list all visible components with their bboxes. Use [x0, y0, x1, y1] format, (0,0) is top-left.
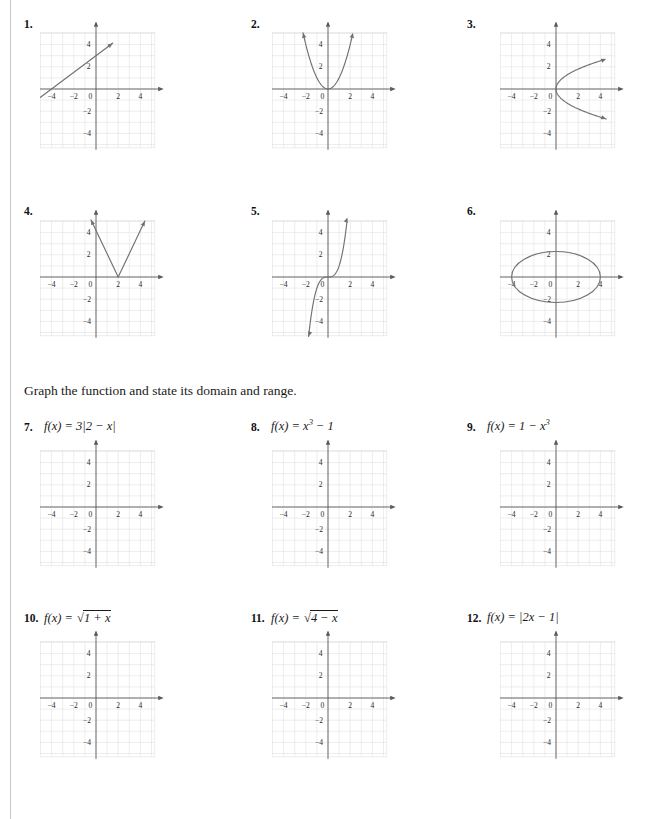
svg-text:−4: −4 [48, 510, 56, 519]
svg-text:2: 2 [348, 92, 352, 101]
svg-text:0: 0 [89, 701, 93, 710]
svg-text:4: 4 [139, 510, 143, 519]
svg-text:−2: −2 [83, 525, 91, 534]
svg-text:2: 2 [547, 671, 551, 680]
problem-number-5: 5. [251, 205, 260, 217]
svg-text:−2: −2 [83, 295, 91, 304]
svg-text:2: 2 [319, 250, 323, 259]
svg-text:−4: −4 [543, 317, 551, 326]
svg-text:4: 4 [547, 228, 551, 237]
svg-text:−4: −4 [83, 317, 91, 326]
svg-text:−4: −4 [83, 547, 91, 556]
svg-text:−4: −4 [280, 510, 288, 519]
svg-text:4: 4 [139, 701, 143, 710]
problem-formula-7: f(x) = 3|2 − x| [44, 419, 116, 434]
svg-text:4: 4 [319, 458, 323, 467]
svg-text:2: 2 [87, 480, 91, 489]
svg-text:4: 4 [599, 701, 603, 710]
coordinate-graph-2: −4−224042−2−4xy [272, 22, 398, 156]
problem-number-2: 2. [251, 18, 260, 30]
problem-number-10: 10. [24, 612, 38, 624]
svg-text:2: 2 [87, 250, 91, 259]
svg-text:4: 4 [371, 701, 375, 710]
svg-text:−2: −2 [83, 107, 91, 116]
svg-text:−4: −4 [315, 317, 323, 326]
svg-text:2: 2 [116, 280, 120, 289]
svg-text:4: 4 [319, 40, 323, 49]
svg-text:−4: −4 [508, 701, 516, 710]
svg-text:4: 4 [87, 458, 91, 467]
svg-text:−4: −4 [315, 547, 323, 556]
svg-text:2: 2 [116, 510, 120, 519]
svg-text:4: 4 [371, 280, 375, 289]
problem-number-7: 7. [24, 421, 33, 433]
svg-text:0: 0 [549, 280, 553, 289]
svg-text:4: 4 [547, 649, 551, 658]
svg-text:4: 4 [319, 228, 323, 237]
svg-text:4: 4 [371, 92, 375, 101]
svg-text:0: 0 [321, 92, 325, 101]
svg-text:4: 4 [599, 510, 603, 519]
svg-text:0: 0 [321, 701, 325, 710]
problem-number-8: 8. [251, 421, 260, 433]
problem-number-12: 12. [467, 612, 481, 624]
svg-text:−2: −2 [543, 525, 551, 534]
svg-text:2: 2 [87, 62, 91, 71]
coordinate-graph-11: −4−224042−2−4xy [272, 631, 398, 765]
svg-text:4: 4 [139, 92, 143, 101]
svg-text:−4: −4 [280, 92, 288, 101]
problem-number-11: 11. [251, 612, 265, 624]
svg-text:0: 0 [89, 510, 93, 519]
svg-text:0: 0 [89, 92, 93, 101]
coordinate-graph-4: −4−224042−2−4xy [40, 210, 166, 344]
coordinate-graph-9: −4−224042−2−4xy [500, 440, 626, 574]
svg-text:0: 0 [321, 280, 325, 289]
svg-text:2: 2 [576, 280, 580, 289]
svg-text:2: 2 [576, 92, 580, 101]
svg-text:−4: −4 [315, 129, 323, 138]
svg-text:−2: −2 [315, 525, 323, 534]
svg-text:−4: −4 [543, 547, 551, 556]
svg-text:2: 2 [547, 480, 551, 489]
svg-text:2: 2 [319, 62, 323, 71]
page-left-rule [10, 0, 11, 819]
svg-text:−2: −2 [302, 510, 310, 519]
svg-text:0: 0 [549, 701, 553, 710]
svg-text:0: 0 [549, 92, 553, 101]
svg-text:−4: −4 [508, 92, 516, 101]
svg-text:−2: −2 [70, 92, 78, 101]
svg-text:2: 2 [348, 280, 352, 289]
instruction-text: Graph the function and state its domain … [24, 383, 297, 399]
svg-text:−2: −2 [530, 701, 538, 710]
svg-text:−2: −2 [315, 716, 323, 725]
coordinate-graph-8: −4−224042−2−4xy [272, 440, 398, 574]
svg-text:−2: −2 [302, 92, 310, 101]
svg-text:−2: −2 [530, 92, 538, 101]
problem-number-6: 6. [467, 205, 476, 217]
svg-text:2: 2 [319, 480, 323, 489]
svg-text:2: 2 [87, 671, 91, 680]
svg-text:−2: −2 [70, 510, 78, 519]
problem-formula-9: f(x) = 1 − x3 [487, 419, 550, 434]
svg-text:2: 2 [348, 701, 352, 710]
svg-text:−4: −4 [508, 510, 516, 519]
svg-text:4: 4 [547, 40, 551, 49]
coordinate-graph-12: −4−224042−2−4xy [500, 631, 626, 765]
problem-formula-10: f(x) = √1 + x [44, 610, 111, 626]
coordinate-graph-7: −4−224042−2−4xy [40, 440, 166, 574]
svg-text:−4: −4 [83, 738, 91, 747]
svg-text:−4: −4 [48, 701, 56, 710]
svg-text:4: 4 [87, 40, 91, 49]
svg-text:2: 2 [319, 671, 323, 680]
svg-text:−2: −2 [530, 280, 538, 289]
worksheet-page: 1.−4−224042−2−4xy2.−4−224042−2−4xy3.−4−2… [0, 0, 654, 819]
svg-text:4: 4 [371, 510, 375, 519]
coordinate-graph-6: −4−224042−2−4xy [500, 210, 626, 344]
svg-text:−2: −2 [315, 107, 323, 116]
svg-text:−4: −4 [543, 129, 551, 138]
svg-text:−2: −2 [315, 295, 323, 304]
svg-text:−2: −2 [543, 716, 551, 725]
coordinate-graph-10: −4−224042−2−4xy [40, 631, 166, 765]
svg-text:4: 4 [87, 649, 91, 658]
svg-text:−2: −2 [70, 701, 78, 710]
